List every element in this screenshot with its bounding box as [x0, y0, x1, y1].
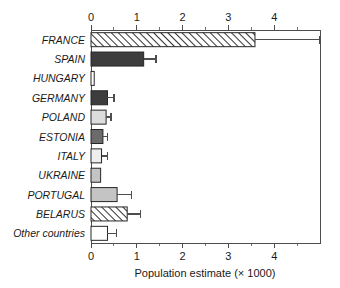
top-tick-label: 3	[225, 11, 231, 23]
bar	[91, 91, 107, 105]
category-label: Other countries	[13, 227, 86, 239]
category-label: BELARUS	[36, 208, 85, 220]
top-tick-label: 2	[180, 11, 186, 23]
category-label: PORTUGAL	[27, 189, 85, 201]
category-label: UKRAINE	[38, 169, 86, 181]
top-tick-label: 0	[88, 11, 94, 23]
category-label: GERMANY	[32, 92, 86, 104]
bottom-tick-label: 4	[271, 250, 277, 262]
bar	[91, 168, 101, 182]
bar	[91, 226, 107, 240]
bottom-tick-label: 2	[180, 250, 186, 262]
bottom-tick-label: 3	[225, 250, 231, 262]
category-label: ITALY	[58, 150, 86, 162]
bar	[91, 71, 94, 85]
category-label: HUNGARY	[33, 72, 86, 84]
category-label: SPAIN	[54, 53, 85, 65]
category-label: POLAND	[42, 111, 86, 123]
bottom-tick-label: 1	[134, 250, 140, 262]
bar	[91, 188, 117, 202]
x-axis-title: Population estimate (× 1000)	[135, 267, 276, 279]
category-label: ESTONIA	[39, 131, 85, 143]
bar	[91, 110, 106, 124]
top-tick-label: 1	[134, 11, 140, 23]
bottom-tick-label: 0	[88, 250, 94, 262]
bar	[91, 52, 144, 66]
category-label: FRANCE	[42, 34, 86, 46]
bar	[91, 207, 127, 221]
bar	[91, 149, 102, 163]
bar	[91, 33, 255, 47]
chart-canvas: 01234 01234 FRANCESPAINHUNGARYGERMANYPOL…	[0, 0, 340, 288]
top-tick-label: 4	[271, 11, 277, 23]
bar	[91, 130, 103, 144]
population-estimate-bar-chart: 01234 01234 FRANCESPAINHUNGARYGERMANYPOL…	[0, 0, 340, 288]
